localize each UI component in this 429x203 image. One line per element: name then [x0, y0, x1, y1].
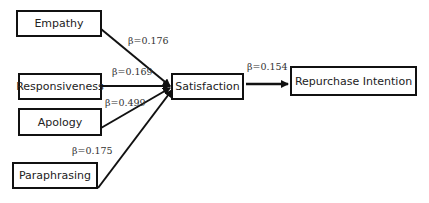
node-responsiveness: Responsiveness	[18, 73, 102, 100]
node-paraphrasing: Paraphrasing	[12, 162, 98, 189]
node-repurchase-intention: Repurchase Intention	[290, 66, 417, 96]
node-apology: Apology	[18, 108, 102, 136]
node-empathy: Empathy	[16, 10, 102, 37]
coef-apology: β=0.499	[105, 97, 146, 108]
coef-paraphrasing: β=0.175	[72, 145, 113, 156]
node-satisfaction: Satisfaction	[171, 73, 244, 100]
coef-empathy: β=0.176	[128, 35, 169, 46]
coef-satisfaction: β=0.154	[247, 61, 288, 72]
coef-responsiveness: β=0.169	[112, 66, 153, 77]
